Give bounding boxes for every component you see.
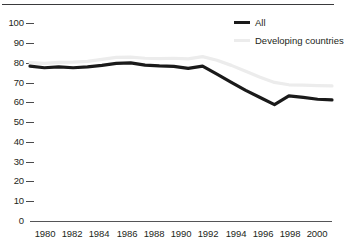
- line-developing-countries: [30, 57, 332, 86]
- x-axis-label-1998: 1998: [275, 228, 305, 239]
- x-axis-label-1994: 1994: [221, 228, 251, 239]
- x-axis-label-1984: 1984: [84, 228, 114, 239]
- legend-item-developing-countries: Developing countries: [234, 35, 344, 46]
- legend-label-developing-countries: Developing countries: [255, 35, 344, 46]
- x-axis-label-2000: 2000: [302, 228, 332, 239]
- x-axis-label-1996: 1996: [248, 228, 278, 239]
- legend-item-all: All: [234, 17, 266, 28]
- legend-swatch-developing-countries-icon: [234, 39, 250, 42]
- x-axis-label-1990: 1990: [166, 228, 196, 239]
- legend-label-all: All: [255, 17, 266, 28]
- x-axis-label-1986: 1986: [112, 228, 142, 239]
- x-axis-label-1982: 1982: [57, 228, 87, 239]
- x-axis-label-1988: 1988: [139, 228, 169, 239]
- legend-swatch-all-icon: [234, 21, 250, 24]
- x-axis-label-1992: 1992: [193, 228, 223, 239]
- x-axis-label-1980: 1980: [30, 228, 60, 239]
